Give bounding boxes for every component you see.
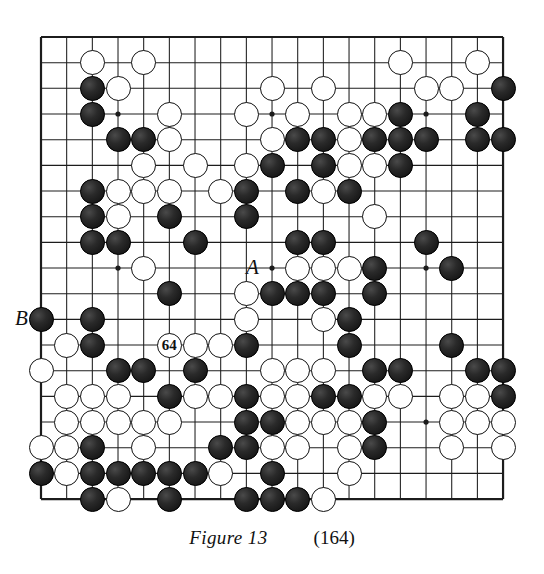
black-stone[interactable] bbox=[157, 461, 182, 486]
white-stone[interactable] bbox=[131, 153, 156, 178]
black-stone[interactable] bbox=[491, 358, 516, 383]
white-stone[interactable] bbox=[131, 256, 156, 281]
white-stone[interactable] bbox=[106, 487, 131, 512]
black-stone[interactable] bbox=[80, 179, 105, 204]
white-stone[interactable] bbox=[285, 102, 310, 127]
white-stone[interactable] bbox=[311, 256, 336, 281]
black-stone[interactable] bbox=[465, 127, 490, 152]
black-stone[interactable] bbox=[234, 333, 259, 358]
white-stone[interactable] bbox=[80, 384, 105, 409]
black-stone[interactable] bbox=[183, 461, 208, 486]
white-stone[interactable] bbox=[208, 461, 233, 486]
black-stone[interactable] bbox=[311, 384, 336, 409]
white-stone[interactable] bbox=[106, 76, 131, 101]
white-stone[interactable] bbox=[183, 384, 208, 409]
white-stone[interactable] bbox=[234, 281, 259, 306]
black-stone[interactable] bbox=[285, 230, 310, 255]
white-stone[interactable] bbox=[311, 307, 336, 332]
white-stone[interactable] bbox=[285, 256, 310, 281]
black-stone[interactable] bbox=[234, 204, 259, 229]
black-stone[interactable] bbox=[337, 307, 362, 332]
black-stone[interactable] bbox=[260, 281, 285, 306]
black-stone[interactable] bbox=[234, 179, 259, 204]
white-stone[interactable] bbox=[183, 333, 208, 358]
white-stone[interactable] bbox=[157, 179, 182, 204]
black-stone[interactable] bbox=[439, 333, 464, 358]
black-stone[interactable] bbox=[80, 461, 105, 486]
black-stone[interactable] bbox=[260, 153, 285, 178]
move-64[interactable]: 64 bbox=[157, 333, 182, 358]
white-stone[interactable] bbox=[337, 256, 362, 281]
black-stone[interactable] bbox=[491, 76, 516, 101]
white-stone[interactable] bbox=[414, 76, 439, 101]
white-stone[interactable] bbox=[388, 384, 413, 409]
black-stone[interactable] bbox=[106, 127, 131, 152]
white-stone[interactable] bbox=[439, 410, 464, 435]
white-stone[interactable] bbox=[337, 410, 362, 435]
black-stone[interactable] bbox=[80, 204, 105, 229]
white-stone[interactable] bbox=[285, 384, 310, 409]
white-stone[interactable] bbox=[491, 435, 516, 460]
go-board-area[interactable]: 64AB bbox=[0, 0, 544, 520]
black-stone[interactable] bbox=[414, 127, 439, 152]
black-stone[interactable] bbox=[80, 333, 105, 358]
white-stone[interactable] bbox=[260, 127, 285, 152]
black-stone[interactable] bbox=[311, 153, 336, 178]
white-stone[interactable] bbox=[80, 50, 105, 75]
black-stone[interactable] bbox=[80, 487, 105, 512]
black-stone[interactable] bbox=[80, 435, 105, 460]
black-stone[interactable] bbox=[388, 358, 413, 383]
white-stone[interactable] bbox=[337, 435, 362, 460]
black-stone[interactable] bbox=[131, 461, 156, 486]
white-stone[interactable] bbox=[260, 384, 285, 409]
black-stone[interactable] bbox=[80, 307, 105, 332]
white-stone[interactable] bbox=[54, 333, 79, 358]
black-stone[interactable] bbox=[80, 76, 105, 101]
black-stone[interactable] bbox=[234, 435, 259, 460]
white-stone[interactable] bbox=[208, 384, 233, 409]
white-stone[interactable] bbox=[157, 410, 182, 435]
white-stone[interactable] bbox=[491, 410, 516, 435]
black-stone[interactable] bbox=[337, 333, 362, 358]
white-stone[interactable] bbox=[311, 487, 336, 512]
black-stone[interactable] bbox=[388, 102, 413, 127]
white-stone[interactable] bbox=[183, 153, 208, 178]
black-stone[interactable] bbox=[234, 384, 259, 409]
white-stone[interactable] bbox=[54, 410, 79, 435]
white-stone[interactable] bbox=[439, 384, 464, 409]
white-stone[interactable] bbox=[465, 50, 490, 75]
black-stone[interactable] bbox=[285, 487, 310, 512]
black-stone[interactable] bbox=[388, 153, 413, 178]
black-stone[interactable] bbox=[362, 410, 387, 435]
black-stone[interactable] bbox=[337, 384, 362, 409]
white-stone[interactable] bbox=[80, 410, 105, 435]
white-stone[interactable] bbox=[311, 179, 336, 204]
black-stone[interactable] bbox=[29, 461, 54, 486]
black-stone[interactable] bbox=[465, 102, 490, 127]
white-stone[interactable] bbox=[311, 410, 336, 435]
black-stone[interactable] bbox=[80, 230, 105, 255]
white-stone[interactable] bbox=[362, 153, 387, 178]
white-stone[interactable] bbox=[234, 102, 259, 127]
white-stone[interactable] bbox=[208, 179, 233, 204]
black-stone[interactable] bbox=[491, 127, 516, 152]
black-stone[interactable] bbox=[465, 358, 490, 383]
black-stone[interactable] bbox=[183, 230, 208, 255]
white-stone[interactable] bbox=[337, 461, 362, 486]
black-stone[interactable] bbox=[157, 281, 182, 306]
white-stone[interactable] bbox=[54, 461, 79, 486]
white-stone[interactable] bbox=[157, 102, 182, 127]
black-stone[interactable] bbox=[439, 256, 464, 281]
black-stone[interactable] bbox=[260, 410, 285, 435]
white-stone[interactable] bbox=[106, 384, 131, 409]
white-stone[interactable] bbox=[54, 384, 79, 409]
white-stone[interactable] bbox=[362, 102, 387, 127]
black-stone[interactable] bbox=[285, 179, 310, 204]
black-stone[interactable] bbox=[183, 358, 208, 383]
white-stone[interactable] bbox=[29, 435, 54, 460]
white-stone[interactable] bbox=[106, 410, 131, 435]
white-stone[interactable] bbox=[337, 153, 362, 178]
white-stone[interactable] bbox=[157, 127, 182, 152]
black-stone[interactable] bbox=[311, 230, 336, 255]
white-stone[interactable] bbox=[234, 307, 259, 332]
